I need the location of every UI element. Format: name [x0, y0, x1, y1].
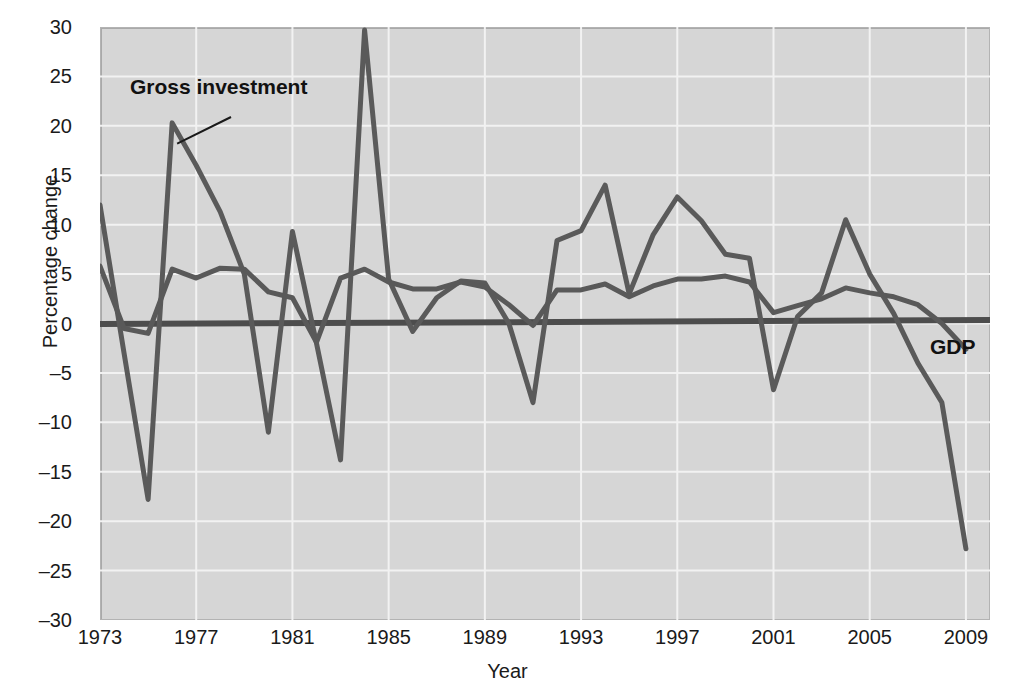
- x-tick-label: 1981: [252, 627, 332, 647]
- x-tick-label: 1977: [156, 627, 236, 647]
- x-tick-label: 1973: [60, 627, 140, 647]
- y-tick-label: –25: [20, 561, 72, 581]
- y-tick-label: 20: [20, 116, 72, 136]
- y-axis-label: Percentage change: [39, 152, 62, 372]
- x-axis-label: Year: [0, 660, 1015, 683]
- plot-svg: [100, 27, 990, 620]
- plot-area: [100, 27, 990, 620]
- y-tick-label: 30: [20, 17, 72, 37]
- series-annotation-gdp: GDP: [930, 335, 976, 359]
- y-tick-label: –15: [20, 462, 72, 482]
- x-tick-label: 2001: [734, 627, 814, 647]
- x-tick-label: 1993: [541, 627, 621, 647]
- x-tick-label: 2005: [830, 627, 910, 647]
- chart-figure: 302520151050–5–10–15–20–25–30 Percentage…: [0, 0, 1015, 698]
- y-tick-label: –10: [20, 412, 72, 432]
- x-tick-label: 2009: [926, 627, 1006, 647]
- x-tick-label: 1989: [445, 627, 525, 647]
- y-tick-label: 25: [20, 66, 72, 86]
- series-annotation-gross-investment: Gross investment: [130, 75, 307, 99]
- x-tick-label: 1985: [349, 627, 429, 647]
- x-tick-label: 1997: [637, 627, 717, 647]
- y-tick-label: –20: [20, 511, 72, 531]
- top-edge-artifact: [0, 0, 1015, 8]
